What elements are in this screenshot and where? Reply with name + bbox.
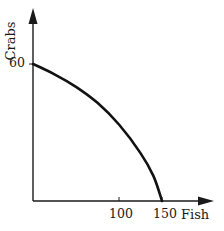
ppf-curve bbox=[33, 64, 162, 201]
y-axis-arrow-icon bbox=[29, 8, 38, 24]
ytick-label-60: 60 bbox=[9, 57, 25, 70]
xtick-label-100: 100 bbox=[109, 208, 133, 221]
xtick-label-150: 150 bbox=[153, 208, 177, 221]
x-axis-arrow-icon bbox=[198, 197, 214, 206]
ppf-chart bbox=[0, 0, 224, 231]
x-axis-label: Fish bbox=[181, 208, 209, 221]
